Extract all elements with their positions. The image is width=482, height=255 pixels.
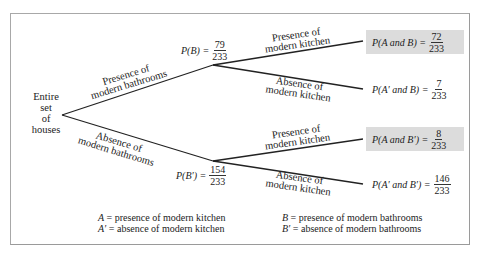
prob-b: P(B) = 79233 xyxy=(181,40,227,61)
fraction: 7233 xyxy=(431,79,446,100)
fraction: 72233 xyxy=(429,32,444,53)
prob-label: P(B) = xyxy=(181,45,209,56)
outcome-a-and-b: P(A and B) = 72233 xyxy=(372,32,444,53)
fraction: 79233 xyxy=(212,40,227,61)
denominator: 233 xyxy=(429,43,444,53)
prob-label: P(A′ and B′) = xyxy=(372,179,431,190)
denominator: 233 xyxy=(435,185,450,195)
legend-text: = presence of modern bathrooms xyxy=(288,212,422,223)
legend-text: = absence of modern kitchen xyxy=(106,223,224,234)
numerator: 72 xyxy=(431,32,443,43)
denominator: 233 xyxy=(212,51,227,61)
numerator: 154 xyxy=(209,165,226,176)
root-line: of xyxy=(30,113,62,124)
denominator: 233 xyxy=(210,176,225,186)
legend-text: = absence of modern bathrooms xyxy=(290,223,421,234)
legend-kitchen: A = presence of modern kitchen A′ = abse… xyxy=(98,212,226,234)
legend-entry: B′ = absence of modern bathrooms xyxy=(282,223,422,234)
outcome-a-and-bprime: P(A and B′) = 8233 xyxy=(372,129,446,150)
fraction: 146233 xyxy=(434,174,451,195)
legend-entry: A = presence of modern kitchen xyxy=(98,212,226,223)
root-line: houses xyxy=(30,124,62,135)
prob-label: P(A and B) = xyxy=(372,37,426,48)
denominator: 233 xyxy=(431,140,446,150)
numerator: 146 xyxy=(434,174,451,185)
root-line: Entire xyxy=(30,91,62,102)
prob-label: P(A and B′) = xyxy=(372,134,428,145)
fraction: 154233 xyxy=(209,165,226,186)
outcome-aprime-and-b: P(A′ and B) = 7233 xyxy=(372,79,446,100)
numerator: 79 xyxy=(214,40,226,51)
root-line: set xyxy=(30,102,62,113)
prob-b-prime: P(B′) = 154233 xyxy=(176,165,226,186)
legend-bathrooms: B = presence of modern bathrooms B′ = ab… xyxy=(282,212,422,234)
legend-text: = presence of modern kitchen xyxy=(104,212,225,223)
fraction: 8233 xyxy=(431,129,446,150)
denominator: 233 xyxy=(431,90,446,100)
outcome-aprime-and-bprime: P(A′ and B′) = 146233 xyxy=(372,174,451,195)
prob-label: P(B′) = xyxy=(176,170,206,181)
legend-entry: B = presence of modern bathrooms xyxy=(282,212,422,223)
numerator: 8 xyxy=(435,129,442,140)
root-node-label: Entire set of houses xyxy=(30,91,62,135)
prob-label: P(A′ and B) = xyxy=(372,84,428,95)
numerator: 7 xyxy=(435,79,442,90)
legend-entry: A′ = absence of modern kitchen xyxy=(98,223,226,234)
